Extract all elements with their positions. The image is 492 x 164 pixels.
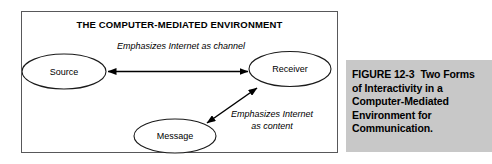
diagram-canvas: Source Receiver Message Emphasizes Inter… xyxy=(22,12,339,154)
node-receiver: Receiver xyxy=(249,52,331,87)
caption-figure-number: FIGURE 12-3 xyxy=(352,68,415,80)
caption-line-5: Communication. xyxy=(352,122,486,136)
source-label: Source xyxy=(50,67,79,77)
caption-line-1: FIGURE 12-3Two Forms xyxy=(352,68,486,82)
figure-diagram-panel: THE COMPUTER-MEDIATED ENVIRONMENT Source… xyxy=(21,11,338,153)
edge-label-channel: Emphasizes Internet as channel xyxy=(117,41,246,51)
caption-line-4: Environment for xyxy=(352,109,486,123)
caption-line-2: of Interactivity in a xyxy=(352,82,486,96)
caption-line-3: Computer-Mediated xyxy=(352,95,486,109)
edge-label-content-line2: as content xyxy=(251,121,293,131)
node-message: Message xyxy=(134,119,216,153)
figure-caption-block: FIGURE 12-3Two Forms of Interactivity in… xyxy=(346,60,492,152)
receiver-label: Receiver xyxy=(272,64,308,74)
caption-line-1-rest: Two Forms xyxy=(421,68,475,80)
figure-caption-text: FIGURE 12-3Two Forms of Interactivity in… xyxy=(352,68,486,136)
edge-label-content-line1: Emphasizes Internet xyxy=(231,109,314,119)
node-source: Source xyxy=(22,54,106,89)
message-label: Message xyxy=(157,131,194,141)
